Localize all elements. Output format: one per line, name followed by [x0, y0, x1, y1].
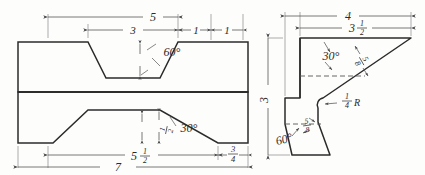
dim-front-base-upper-den: 2 — [143, 156, 147, 165]
dim-front-base-upper-whole: 5 — [131, 149, 137, 163]
dim-side-overall-height: 3 — [257, 97, 271, 104]
dim-front-notch-angle: 60° — [164, 45, 181, 59]
dim-front-lower-thickness-den: 2 — [166, 128, 176, 134]
front-view-geometry — [18, 42, 248, 143]
dim-side-upper-thickness-den: 8 — [353, 60, 363, 68]
dim-side-radius-den: 4 — [345, 101, 349, 110]
dim-front-lower-angle: 30° — [180, 121, 198, 135]
dim-front-base-right-num: 3 — [230, 144, 235, 154]
dim-side-radius: 1 4 R — [342, 92, 360, 110]
dim-side-radius-label: R — [353, 97, 360, 108]
dim-front-overall-bottom: 7 — [115, 160, 122, 174]
front-view-upper-outline — [18, 42, 248, 92]
dim-front-overall-top: 5 — [150, 10, 156, 24]
dim-front-notch-width: 3 — [129, 24, 136, 36]
dim-side-inner-width-den: 2 — [360, 28, 364, 37]
dim-side-lower-thickness-den: 8 — [305, 125, 310, 134]
dim-side-upper-angle: 30° — [322, 49, 340, 63]
dim-front-lower-thickness: 1 2 — [157, 124, 176, 135]
dim-side-radius-num: 1 — [345, 92, 349, 101]
dim-front-step-b: 1 — [224, 24, 230, 36]
dim-front-step-a: 1 — [193, 24, 199, 36]
dim-front-base-upper: 5 1 2 — [131, 147, 150, 165]
front-view-extension-lines — [18, 14, 248, 168]
drawing-canvas: 5 3 1 1 60° 30° 1 2 5 1 2 3 4 7 4 3 — [0, 0, 425, 175]
dim-side-inner-width: 3 1 2 — [348, 19, 367, 37]
dim-front-base-right-den: 4 — [231, 154, 236, 164]
front-view-notch-depth-dim — [140, 44, 160, 76]
front-view-lower-outline — [18, 92, 248, 143]
dim-side-lower-angle: 60° — [274, 130, 294, 148]
dim-side-inner-width-whole: 3 — [348, 21, 355, 35]
dim-front-base-upper-num: 1 — [143, 147, 147, 156]
dim-front-base-right: 3 4 — [228, 144, 238, 164]
dim-side-inner-width-num: 1 — [360, 19, 364, 28]
